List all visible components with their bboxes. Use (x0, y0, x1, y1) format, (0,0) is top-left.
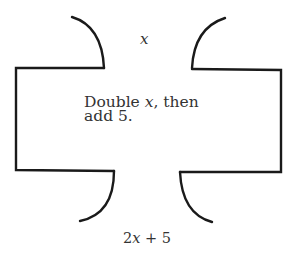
rule-variable: x (145, 93, 154, 111)
input-funnel-left-arc (72, 17, 104, 68)
output-constant: + 5 (140, 230, 171, 246)
input-funnel-right-arc (192, 18, 225, 68)
output-label: 2x + 5 (123, 230, 171, 246)
rule-line-2: add 5. (84, 109, 224, 123)
output-coefficient: 2 (123, 230, 132, 246)
rule-text: Double x, then add 5. (84, 95, 224, 123)
output-funnel-right-arc (180, 172, 212, 222)
output-funnel-left-arc (80, 171, 114, 221)
input-label: x (140, 30, 148, 48)
